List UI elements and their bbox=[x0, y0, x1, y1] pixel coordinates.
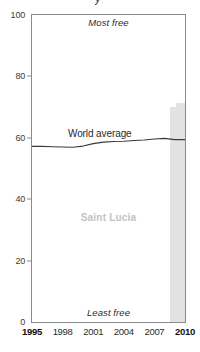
y-axis-tick-label: 80 bbox=[15, 71, 25, 81]
x-axis: 199519982001200420072010 bbox=[0, 326, 200, 346]
y-axis-tick-label: 40 bbox=[15, 194, 25, 204]
world-average-label: World average bbox=[68, 128, 132, 139]
x-axis-tick-label: 1995 bbox=[22, 326, 42, 337]
x-axis-tick-label: 2004 bbox=[114, 326, 134, 337]
y-axis-tick-label: 60 bbox=[15, 133, 25, 143]
world-average-line bbox=[32, 15, 185, 322]
x-axis-tick-label: 1998 bbox=[53, 326, 73, 337]
chart-container: y 020406080100 Most free Least free Sain… bbox=[0, 0, 200, 352]
x-axis-tick-label: 2010 bbox=[175, 326, 195, 337]
y-axis: 020406080100 bbox=[0, 0, 31, 352]
clipped-title-descender: y bbox=[95, 0, 104, 5]
y-axis-tick-label: 100 bbox=[11, 10, 25, 20]
y-axis-tick-label: 20 bbox=[15, 256, 25, 266]
plot-area: Most free Least free Saint Lucia World a… bbox=[31, 14, 186, 323]
x-axis-tick-label: 2001 bbox=[83, 326, 103, 337]
x-axis-tick-label: 2007 bbox=[144, 326, 164, 337]
